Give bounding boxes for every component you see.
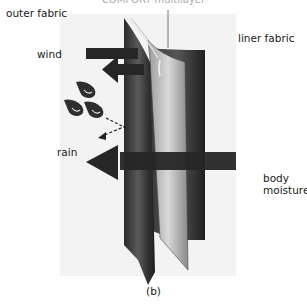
label-liner-fabric: liner fabric: [238, 32, 294, 44]
label-rain: rain: [57, 146, 77, 158]
label-outer-fabric: outer fabric: [6, 7, 67, 19]
label-body-moisture-line1: body: [263, 172, 289, 184]
fabric-layers-illustration: [0, 0, 307, 307]
label-wind: wind: [37, 48, 62, 60]
wind-arrow-icon: [86, 48, 138, 59]
figure-caption: (b): [0, 285, 307, 297]
label-body-moisture-line2: moisture: [263, 184, 307, 196]
